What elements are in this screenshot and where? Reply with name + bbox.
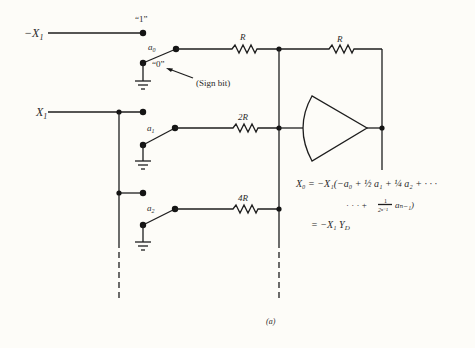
branch-r0: R <box>176 32 282 53</box>
one-label: “1” <box>135 14 148 24</box>
switch-a2: a2 <box>135 203 178 250</box>
zero-label: “0” <box>152 59 165 69</box>
a2-label: a2 <box>147 203 155 214</box>
output-equation: X₀ = −X₁(−a₀ + ½ a₁ + ¼ a₂ + · · · · · ·… <box>295 178 437 232</box>
sign-bit-arrow-icon <box>166 68 193 78</box>
branch-r2: 4R <box>175 193 282 213</box>
x1-label: X1 <box>35 105 47 121</box>
ground-icon <box>135 225 151 250</box>
ground-icon <box>135 145 151 169</box>
resistor-icon <box>327 45 382 53</box>
equation-fraction-numerator: 1 <box>384 198 387 204</box>
op-amp-icon <box>279 96 385 161</box>
branch-r1: 2R <box>175 112 282 132</box>
neg-x1-input: −X1 “1” <box>24 14 148 42</box>
equation-line-2-suffix: aₙ₋₁) <box>395 200 414 210</box>
pos-x1-input: X1 <box>35 105 146 298</box>
ground-icon <box>135 63 151 89</box>
resistor-icon <box>231 124 279 132</box>
r2-label: 4R <box>238 193 249 203</box>
resistor-icon <box>231 205 279 213</box>
equation-fraction-denominator: 2ⁿ⁻¹ <box>378 207 388 213</box>
r1-label: 2R <box>238 112 249 122</box>
terminal-one-dot <box>140 30 146 36</box>
sign-bit-note: (Sign bit) <box>196 78 230 88</box>
resistor-icon <box>230 45 279 53</box>
equation-line-2: · · · + <box>346 200 367 210</box>
equation-line-1: X₀ = −X₁(−a₀ + ½ a₁ + ¼ a₂ + · · · <box>295 178 437 190</box>
neg-x1-label: −X1 <box>24 26 43 42</box>
a0-label: a0 <box>148 42 156 53</box>
feedback-r-label: R <box>336 34 343 44</box>
switch-a1: a1 <box>135 123 178 169</box>
equation-line-3: = −X₁ YD <box>311 219 350 232</box>
dac-circuit-diagram: −X1 “1” a0 “0” (Sign bit) R <box>0 0 475 348</box>
a1-label: a1 <box>147 123 155 134</box>
figure-caption: (a) <box>266 317 276 326</box>
r0-label: R <box>239 32 246 42</box>
